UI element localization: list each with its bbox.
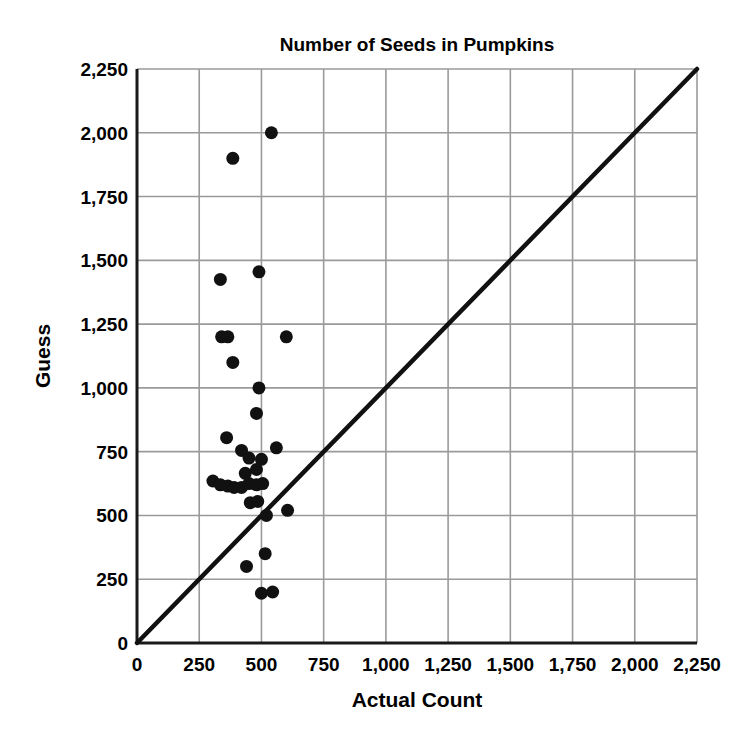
y-tick-labels: 02505007501,0001,2501,5001,7502,0002,250 — [80, 59, 128, 654]
data-point — [240, 560, 253, 573]
data-point — [280, 330, 293, 343]
data-point — [252, 381, 265, 394]
data-point — [221, 330, 234, 343]
x-tick-label: 250 — [183, 654, 215, 675]
reference-line-y-equals-x — [137, 69, 697, 643]
y-tick-label: 2,250 — [80, 59, 128, 80]
y-tick-label: 2,000 — [80, 123, 128, 144]
x-axis-title: Actual Count — [352, 688, 483, 711]
y-tick-label: 1,000 — [80, 378, 128, 399]
x-tick-label: 2,000 — [611, 654, 659, 675]
data-point — [281, 504, 294, 517]
data-point — [255, 587, 268, 600]
data-point — [250, 463, 263, 476]
y-tick-label: 1,750 — [80, 187, 128, 208]
x-tick-label: 1,250 — [424, 654, 472, 675]
data-point — [251, 495, 264, 508]
data-point — [226, 152, 239, 165]
data-point — [243, 452, 256, 465]
x-tick-labels: 02505007501,0001,2501,5001,7502,0002,250 — [132, 654, 721, 675]
data-point — [220, 431, 233, 444]
y-tick-label: 0 — [117, 633, 128, 654]
x-tick-label: 2,250 — [673, 654, 721, 675]
y-tick-label: 250 — [96, 569, 128, 590]
data-point — [250, 407, 263, 420]
y-tick-label: 750 — [96, 442, 128, 463]
x-tick-label: 1,000 — [362, 654, 410, 675]
x-tick-label: 500 — [246, 654, 278, 675]
data-point — [259, 547, 272, 560]
y-tick-label: 1,250 — [80, 314, 128, 335]
chart-title: Number of Seeds in Pumpkins — [280, 34, 555, 55]
scatter-chart: Number of Seeds in Pumpkins 02505007501,… — [0, 0, 753, 738]
x-tick-label: 1,500 — [487, 654, 535, 675]
data-point — [256, 477, 269, 490]
data-point — [265, 126, 278, 139]
y-tick-label: 1,500 — [80, 250, 128, 271]
data-point — [266, 585, 279, 598]
x-tick-label: 0 — [132, 654, 143, 675]
data-point — [214, 273, 227, 286]
y-tick-label: 500 — [96, 505, 128, 526]
data-point — [226, 356, 239, 369]
data-point — [270, 441, 283, 454]
y-axis-title: Guess — [31, 324, 54, 388]
data-point — [252, 265, 265, 278]
data-point — [260, 509, 273, 522]
x-tick-label: 750 — [308, 654, 340, 675]
x-tick-label: 1,750 — [549, 654, 597, 675]
